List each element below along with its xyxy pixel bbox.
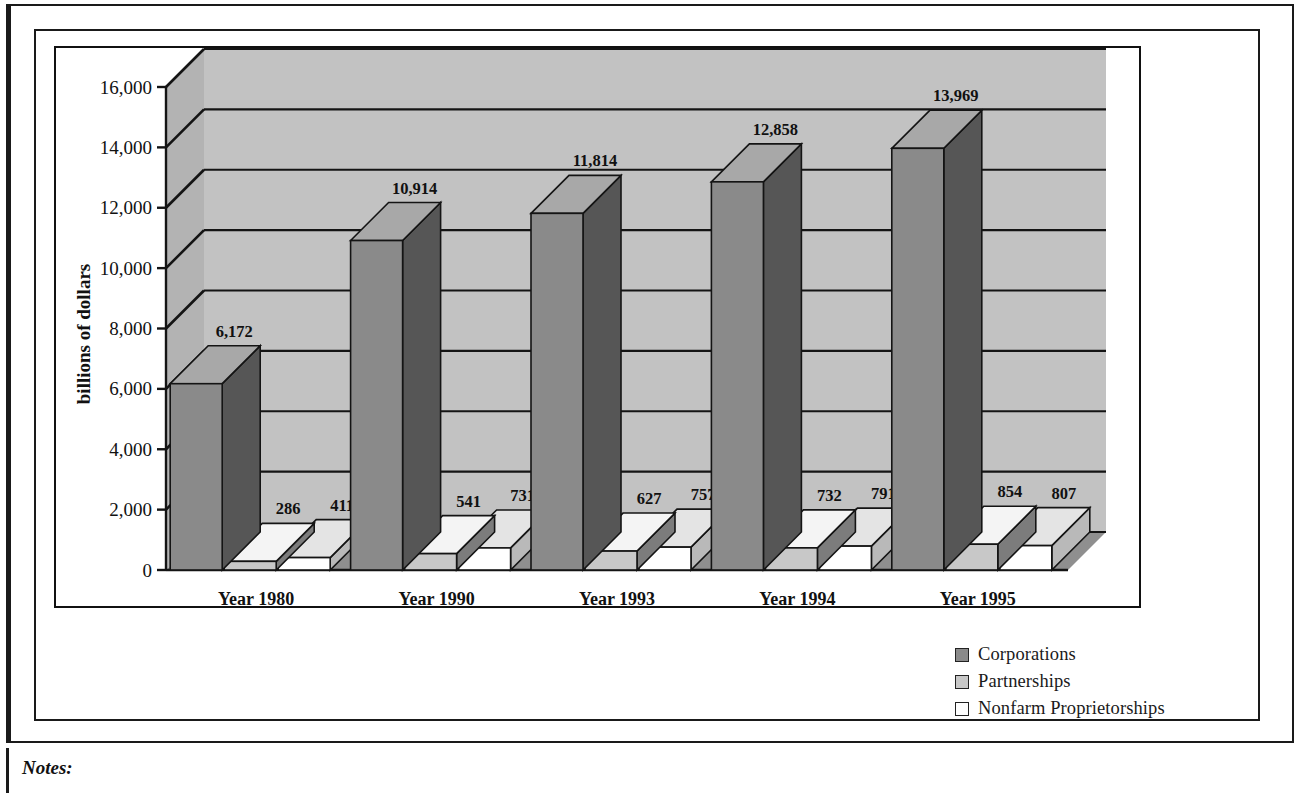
x-axis-category-label: Year 1990 bbox=[399, 589, 475, 606]
y-axis-tick-label: 12,000 bbox=[100, 197, 152, 218]
bar-value-label: 732 bbox=[817, 486, 842, 505]
x-axis-category-label: Year 1995 bbox=[940, 589, 1016, 606]
left-margin-rule bbox=[6, 748, 9, 793]
x-axis-category-label: Year 1980 bbox=[218, 589, 294, 606]
bar-value-label: 11,814 bbox=[573, 151, 617, 170]
bar-value-label: 12,858 bbox=[753, 120, 798, 139]
bar-value-label: 854 bbox=[997, 482, 1022, 501]
x-axis-category-label: Year 1994 bbox=[759, 589, 835, 606]
bar-value-label: 10,914 bbox=[392, 179, 437, 198]
legend-swatch-corporations bbox=[955, 648, 969, 662]
bar-3d[interactable] bbox=[711, 144, 801, 570]
bar-value-label: 6,172 bbox=[216, 322, 253, 341]
legend-swatch-partnerships bbox=[955, 675, 969, 689]
y-axis-tick-label: 10,000 bbox=[100, 258, 152, 279]
bar-front-face bbox=[531, 213, 583, 570]
bar-side-face bbox=[222, 346, 260, 570]
legend-item[interactable]: Corporations bbox=[955, 641, 1255, 668]
legend-item-label: Partnerships bbox=[978, 671, 1071, 692]
bar-side-face bbox=[403, 203, 441, 570]
bar-value-label: 627 bbox=[637, 489, 662, 508]
y-axis-title: billions of dollars bbox=[73, 264, 94, 404]
y-axis-tick-label: 2,000 bbox=[109, 499, 152, 520]
bar-value-label: 807 bbox=[1051, 484, 1076, 503]
y-axis-tick-label: 4,000 bbox=[109, 439, 152, 460]
notes-label: Notes: bbox=[22, 757, 73, 779]
bar-front-face bbox=[170, 384, 222, 570]
legend-item-label: Corporations bbox=[978, 644, 1076, 665]
bar-3d[interactable] bbox=[351, 203, 441, 570]
bar-side-face bbox=[944, 110, 982, 570]
chart-plot-box: 02,0004,0006,0008,00010,00012,00014,0001… bbox=[54, 46, 1141, 608]
bar-3d[interactable] bbox=[531, 175, 621, 570]
bar-3d[interactable] bbox=[892, 110, 982, 570]
chart-legend: CorporationsPartnershipsNonfarm Propriet… bbox=[955, 641, 1255, 722]
y-axis-tick-label: 8,000 bbox=[109, 318, 152, 339]
y-axis-tick-label: 16,000 bbox=[100, 77, 152, 98]
bar-value-label: 286 bbox=[276, 499, 301, 518]
bar-3d[interactable] bbox=[170, 346, 260, 570]
x-axis-category-label: Year 1993 bbox=[579, 589, 655, 606]
bar-front-face bbox=[892, 148, 944, 570]
bar-side-face bbox=[763, 144, 801, 570]
bar-front-face bbox=[351, 241, 403, 570]
legend-item-label: Nonfarm Proprietorships bbox=[978, 698, 1165, 719]
legend-swatch-nonfarm bbox=[955, 702, 969, 716]
bar-value-label: 13,969 bbox=[933, 86, 978, 105]
y-axis-tick-label: 0 bbox=[143, 560, 153, 581]
bar-chart-3d: 02,0004,0006,0008,00010,00012,00014,0001… bbox=[56, 48, 1139, 606]
legend-item[interactable]: Partnerships bbox=[955, 668, 1255, 695]
bar-front-face bbox=[711, 182, 763, 570]
y-axis-tick-label: 14,000 bbox=[100, 137, 152, 158]
legend-item[interactable]: Nonfarm Proprietorships bbox=[955, 695, 1255, 722]
bar-front-face bbox=[224, 561, 276, 570]
bar-side-face bbox=[583, 175, 621, 570]
page-root: 02,0004,0006,0008,00010,00012,00014,0001… bbox=[0, 0, 1301, 793]
bar-value-label: 541 bbox=[456, 492, 481, 511]
y-axis-tick-label: 6,000 bbox=[109, 378, 152, 399]
